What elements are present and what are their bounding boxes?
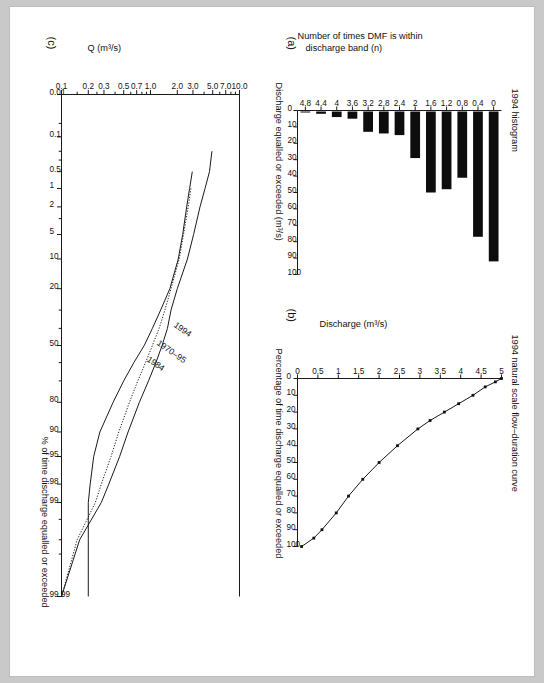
panel-b-xtick: 70 bbox=[286, 489, 296, 498]
panel-c-xtick: 2 bbox=[49, 199, 54, 208]
panel-b-xtick: 60 bbox=[286, 472, 296, 481]
panel-b-data-point bbox=[377, 461, 380, 464]
panel-b-ytick: 0 bbox=[295, 366, 300, 375]
panel-b-xtick: 20 bbox=[286, 405, 296, 414]
rotated-figure-canvas: (a) 1994 histogram Number of times DMF i… bbox=[17, 14, 527, 669]
histogram-bar bbox=[410, 111, 420, 158]
panel-a-xtick: 4.4 bbox=[315, 98, 327, 107]
panel-a-xtick: 4.8 bbox=[299, 98, 311, 107]
panel-a-xlabel: Discharge equalled or exceeded (m³/s) bbox=[273, 82, 283, 240]
panel-c-xtick: 10 bbox=[49, 252, 59, 261]
panel-c-xtick: 95 bbox=[49, 449, 59, 458]
panel-b-data-point bbox=[361, 477, 364, 480]
panel-c-xtick: 50 bbox=[49, 338, 59, 347]
panel-c-curve-1994 bbox=[61, 151, 211, 596]
panel-b-ytick: 5 bbox=[499, 366, 504, 375]
figure-page: (a) 1994 histogram Number of times DMF i… bbox=[0, 0, 544, 683]
panel-c-probability-fdc: (c) Q (m³/s) 0.010.10.512510205080909598… bbox=[25, 36, 255, 650]
panel-c-ytick: 1.0 bbox=[144, 81, 156, 90]
histogram-bar bbox=[331, 111, 341, 117]
panel-b-data-point bbox=[416, 427, 419, 430]
histogram-bar bbox=[300, 111, 310, 112]
panel-c-ytick: 0.1 bbox=[55, 81, 67, 90]
panel-a-xtick: 0.4 bbox=[472, 98, 484, 107]
panel-c-xtick: 80 bbox=[49, 395, 59, 404]
panel-a-xtick: 2.4 bbox=[393, 98, 405, 107]
panel-a-title: 1994 histogram bbox=[509, 88, 519, 151]
panel-a-plot: 010203040506070809010000.40.81.21.622.42… bbox=[267, 36, 519, 286]
histogram-bar bbox=[473, 111, 483, 236]
panel-c-xtick: 20 bbox=[49, 281, 59, 290]
panel-b-data-point bbox=[347, 494, 350, 497]
panel-c-curve-1984 bbox=[88, 171, 192, 596]
panel-c-xtick: 98 bbox=[49, 477, 59, 486]
panel-a-ytick: 80 bbox=[287, 234, 297, 243]
figure-paper: (a) 1994 histogram Number of times DMF i… bbox=[10, 7, 534, 676]
histogram-bar bbox=[316, 111, 326, 113]
panel-c-ytick: 2.0 bbox=[171, 81, 183, 90]
panel-c-ytick: 3.0 bbox=[187, 81, 199, 90]
panel-c-ytick: 0.3 bbox=[98, 81, 110, 90]
panel-a-ytick: 90 bbox=[287, 251, 297, 260]
panel-b-fdc: (b) 1994 natural scale flow–duration cur… bbox=[267, 314, 519, 564]
panel-b-xtick: 80 bbox=[286, 505, 296, 514]
panel-a-xtick: 1.6 bbox=[425, 98, 437, 107]
panel-a-ytick: 70 bbox=[287, 218, 297, 227]
panel-c-annotation: 1994 bbox=[171, 319, 193, 338]
panel-a-ylabel-line2: discharge band (n) bbox=[305, 42, 382, 52]
histogram-bar bbox=[457, 111, 467, 177]
panel-a-xtick: 2 bbox=[412, 98, 417, 107]
panel-b-tag: (b) bbox=[285, 308, 297, 321]
panel-c-ytick: 0.5 bbox=[118, 81, 130, 90]
panel-a-ytick: 30 bbox=[287, 152, 297, 161]
panel-c-xtick: 0.5 bbox=[49, 164, 61, 173]
panel-b-plot: 010203040506070809010000.511.522.533.544… bbox=[267, 314, 519, 564]
panel-c-xtick: 5 bbox=[49, 227, 54, 236]
panel-b-ytick: 4.5 bbox=[475, 366, 487, 375]
panel-b-xtick: 40 bbox=[286, 438, 296, 447]
panel-c-tag: (c) bbox=[45, 36, 57, 49]
panel-c-ylabel: Q (m³/s) bbox=[87, 42, 121, 52]
panel-b-data-point bbox=[396, 444, 399, 447]
panel-a-xtick: 4 bbox=[334, 98, 339, 107]
panel-b-xlabel: Percentage of time discharge equalled or… bbox=[273, 348, 283, 558]
panel-b-title: 1994 natural scale flow–duration curve bbox=[509, 334, 519, 491]
histogram-bar bbox=[441, 111, 451, 189]
panel-a-tag: (a) bbox=[285, 36, 297, 49]
panel-a-xtick: 0.8 bbox=[456, 98, 468, 107]
panel-b-ytick: 0.5 bbox=[312, 366, 324, 375]
panel-a-histogram: (a) 1994 histogram Number of times DMF i… bbox=[267, 36, 519, 286]
panel-c-ytick: 5.0 bbox=[207, 81, 219, 90]
panel-a-xtick: 2.8 bbox=[378, 98, 390, 107]
panel-c-xtick: 90 bbox=[49, 424, 59, 433]
histogram-bar bbox=[378, 111, 388, 133]
panel-c-xtick: 99 bbox=[49, 495, 59, 504]
panel-a-ylabel-line1: Number of times DMF is within bbox=[297, 30, 422, 40]
panel-c-ytick: 10.0 bbox=[231, 81, 247, 90]
panel-c-xtick: 0.1 bbox=[49, 129, 61, 138]
panel-a-ytick: 0 bbox=[287, 103, 292, 112]
panel-b-ytick: 1 bbox=[336, 366, 341, 375]
panel-b-ylabel: Discharge (m³/s) bbox=[319, 318, 387, 328]
panel-c-ytick: 7.0 bbox=[220, 81, 232, 90]
panel-c-curve-1970-95 bbox=[61, 188, 190, 596]
panel-a-xtick: 3.2 bbox=[362, 98, 374, 107]
panel-b-xtick: 100 bbox=[286, 539, 300, 548]
histogram-bar bbox=[363, 111, 373, 131]
panel-a-xtick: 3.6 bbox=[346, 98, 358, 107]
histogram-bar bbox=[426, 111, 436, 192]
panel-c-xtick: 1 bbox=[49, 181, 54, 190]
panel-b-ytick: 4 bbox=[458, 366, 463, 375]
panel-b-curve-1994 bbox=[301, 378, 501, 546]
panel-c-ytick: 0.7 bbox=[131, 81, 143, 90]
panel-b-data-point bbox=[320, 528, 323, 531]
panel-a-ytick: 20 bbox=[287, 136, 297, 145]
panel-c-xtick: 99.99 bbox=[49, 589, 70, 598]
panel-a-ytick: 60 bbox=[287, 201, 297, 210]
panel-c-plot: 0.010.10.5125102050809095989999.9910.07.… bbox=[25, 36, 255, 650]
histogram-bar bbox=[488, 111, 498, 261]
panel-b-ytick: 3.5 bbox=[434, 366, 446, 375]
panel-b-xtick: 10 bbox=[286, 388, 296, 397]
histogram-bar bbox=[347, 111, 357, 118]
panel-c-ytick: 0.2 bbox=[82, 81, 94, 90]
